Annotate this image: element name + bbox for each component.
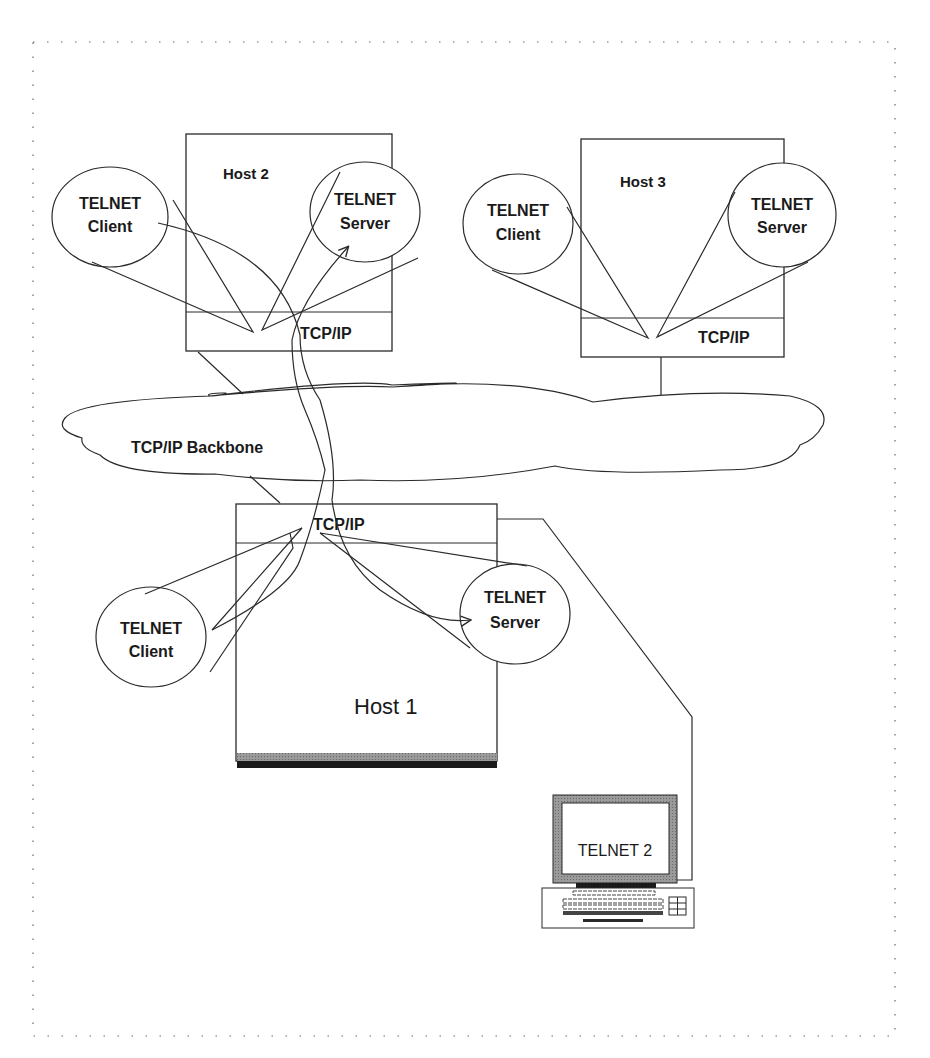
host-2-telnet-server [310, 162, 420, 262]
backbone-label: TCP/IP Backbone [131, 439, 263, 456]
host-3-telnet-server [728, 163, 836, 267]
host-3-server-line2: Server [757, 219, 807, 236]
host-1-telnet-client [96, 587, 206, 687]
host-2-server-line1: TELNET [334, 191, 396, 208]
host-3: Host 3 TCP/IP TELNET Client TELNET Serve… [463, 139, 836, 396]
host-3-client-line1: TELNET [487, 202, 549, 219]
host-1-base-dark [237, 761, 497, 768]
keyboard-keys-row3 [563, 911, 663, 915]
host-1-server-line1: TELNET [484, 589, 546, 606]
keyboard-spacebar [583, 919, 643, 922]
backbone-cloud [62, 383, 824, 481]
host-2-client-line2: Client [88, 218, 133, 235]
host-3-tcpip-label: TCP/IP [698, 329, 750, 346]
host-1-label: Host 1 [354, 694, 418, 719]
host-2-tcpip-label: TCP/IP [300, 325, 352, 342]
tcpip-backbone: TCP/IP Backbone [62, 352, 824, 503]
host-1-backbone-link [250, 476, 280, 503]
terminal-label: TELNET 2 [578, 842, 653, 859]
host-3-label: Host 3 [620, 173, 666, 190]
diagram-canvas: Host 2 TCP/IP TELNET Client TELNET Serve… [0, 0, 930, 1058]
host-2-server-line2: Server [340, 215, 390, 232]
host-2-client-line1: TELNET [79, 195, 141, 212]
terminal-screen [562, 803, 669, 874]
host-3-client-line2: Client [496, 226, 541, 243]
host-1-client-line1: TELNET [120, 620, 182, 637]
host-1: TCP/IP Host 1 TELNET Client TELNET Serve… [96, 504, 570, 768]
host-3-server-line1: TELNET [751, 196, 813, 213]
host-2-telnet-client [52, 167, 168, 267]
host-2: Host 2 TCP/IP TELNET Client TELNET Serve… [52, 134, 420, 351]
host-1-client-line2: Client [129, 643, 174, 660]
terminal-stand [576, 883, 656, 888]
host-1-server-line2: Server [490, 614, 540, 631]
host-3-telnet-client [463, 174, 573, 274]
host-2-label: Host 2 [223, 165, 269, 182]
host-2-backbone-link [198, 352, 243, 394]
host-1-base-gray [237, 753, 497, 761]
